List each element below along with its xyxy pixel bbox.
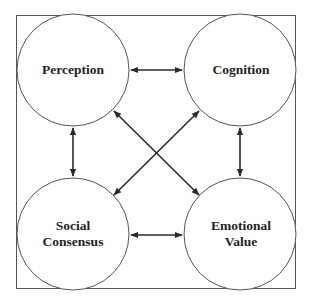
node-label-social-consensus: Social Consensus [18, 218, 128, 250]
node-label-emotional-value: Emotional Value [186, 218, 296, 250]
node-label-social-consensus-line-1: Social [18, 218, 128, 234]
node-label-social-consensus-line-2: Consensus [18, 234, 128, 250]
node-label-cognition-line-1: Cognition [186, 62, 296, 78]
node-label-cognition: Cognition [186, 62, 296, 78]
node-label-emotional-value-line-2: Value [186, 234, 296, 250]
diagram-svg [0, 0, 310, 303]
node-label-perception: Perception [18, 62, 128, 78]
node-label-emotional-value-line-1: Emotional [186, 218, 296, 234]
node-label-perception-line-1: Perception [18, 62, 128, 78]
diagram-canvas: Perception Cognition Social Consensus Em… [0, 0, 310, 303]
